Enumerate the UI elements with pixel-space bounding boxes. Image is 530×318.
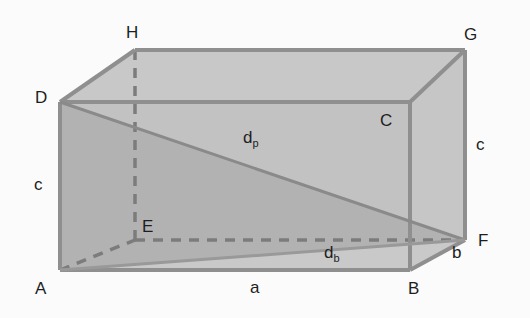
cuboid-svg: H G D C E F A B a b c c dp db	[0, 0, 530, 318]
vertex-label-h: H	[126, 23, 138, 42]
vertex-label-d: D	[35, 88, 47, 107]
vertex-label-f: F	[478, 231, 488, 250]
space-diagonal-sub: p	[252, 137, 258, 149]
edge-label-height-right: c	[476, 135, 485, 154]
vertex-label-e: E	[142, 217, 153, 236]
cuboid-diagram: H G D C E F A B a b c c dp db	[0, 0, 530, 318]
vertex-label-c: C	[380, 111, 392, 130]
vertex-label-g: G	[464, 25, 477, 44]
vertex-label-a: A	[35, 279, 47, 298]
base-diagonal-sub: b	[333, 252, 339, 264]
edge-label-height-left: c	[34, 175, 43, 194]
base-diagonal-main: d	[324, 243, 333, 262]
space-diagonal-main: d	[243, 128, 252, 147]
edge-label-length: a	[250, 278, 260, 297]
edge-label-width: b	[452, 243, 461, 262]
vertex-label-b: B	[408, 279, 419, 298]
